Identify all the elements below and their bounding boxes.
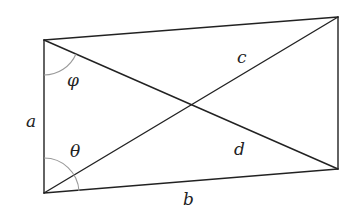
label-a: a (26, 111, 36, 131)
angle-theta-arc (44, 158, 79, 191)
label-c: c (237, 47, 247, 67)
label-b: b (183, 189, 194, 209)
label-d: d (234, 139, 245, 159)
label-theta: θ (70, 141, 80, 161)
label-phi: φ (67, 70, 79, 90)
side-top (44, 17, 338, 40)
diagonal-d (44, 40, 338, 169)
quadrilateral-diagram: φ a θ c d b (0, 0, 351, 218)
